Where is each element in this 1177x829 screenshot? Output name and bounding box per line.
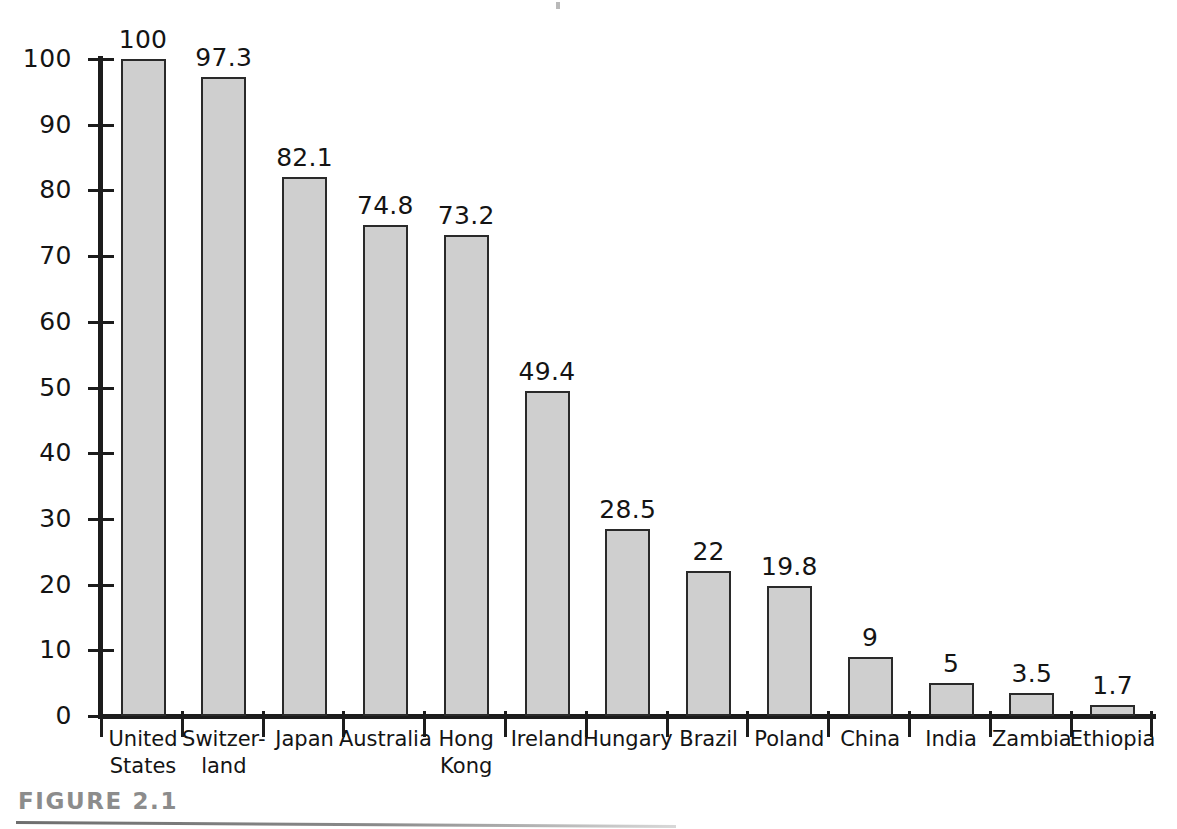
- y-tick-label: 100: [2, 46, 72, 71]
- bar: [444, 235, 489, 716]
- y-tick-mark: [88, 321, 114, 324]
- bar-value-label: 19.8: [729, 554, 849, 580]
- y-tick-label: 50: [2, 375, 72, 400]
- y-tick-mark: [88, 255, 114, 258]
- y-tick-mark: [88, 387, 114, 390]
- bar-value-label: 73.2: [406, 203, 526, 229]
- category-label-line: Ethiopia: [1053, 726, 1173, 753]
- bar: [282, 177, 327, 716]
- category-label-line: land: [164, 753, 284, 780]
- y-tick-label: 60: [2, 309, 72, 334]
- bar: [1090, 705, 1135, 716]
- y-tick-label: 70: [2, 243, 72, 268]
- y-tick-label: 10: [2, 637, 72, 662]
- y-tick-label: 80: [2, 177, 72, 202]
- y-tick-label: 30: [2, 506, 72, 531]
- y-tick-label: 40: [2, 440, 72, 465]
- y-tick-mark: [88, 584, 114, 587]
- y-tick-label: 0: [2, 703, 72, 728]
- bar: [1009, 693, 1054, 716]
- category-label: Ethiopia: [1053, 726, 1173, 753]
- y-tick-label: 20: [2, 572, 72, 597]
- y-tick-mark: [88, 649, 114, 652]
- bar: [121, 59, 166, 716]
- y-tick-mark: [88, 189, 114, 192]
- bar-value-label: 97.3: [164, 45, 284, 71]
- figure-container: 0102030405060708090100 100UnitedStates97…: [0, 0, 1177, 829]
- bar-value-label: 82.1: [245, 145, 365, 171]
- bar: [525, 391, 570, 716]
- bar-value-label: 1.7: [1053, 673, 1173, 699]
- bar: [605, 529, 650, 716]
- bar: [363, 225, 408, 716]
- y-tick-mark: [88, 452, 114, 455]
- bar-value-label: 49.4: [487, 359, 607, 385]
- scan-artifact: [556, 2, 560, 9]
- bar-value-label: 28.5: [568, 497, 688, 523]
- bar: [929, 683, 974, 716]
- bar-value-label: 9: [810, 625, 930, 651]
- bar: [767, 586, 812, 716]
- bar: [848, 657, 893, 716]
- caption-rule: [16, 821, 676, 828]
- category-label-line: Kong: [406, 753, 526, 780]
- bar-chart: 0102030405060708090100 100UnitedStates97…: [0, 0, 1177, 790]
- y-tick-mark: [88, 518, 114, 521]
- y-tick-label: 90: [2, 112, 72, 137]
- bar: [201, 77, 246, 716]
- bar: [686, 571, 731, 716]
- y-tick-mark: [88, 58, 114, 61]
- figure-caption-block: FIGURE 2.1: [0, 788, 1177, 829]
- figure-caption-text: FIGURE 2.1: [18, 788, 178, 814]
- y-tick-mark: [88, 124, 114, 127]
